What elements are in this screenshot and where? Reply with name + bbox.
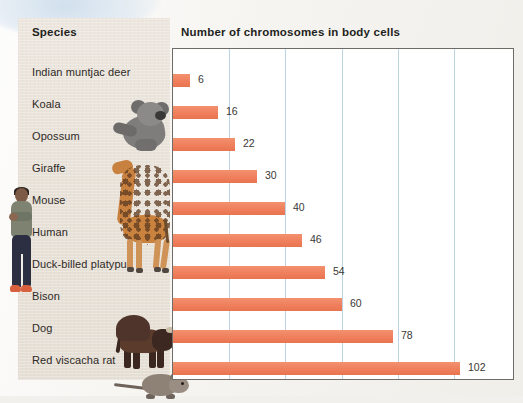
- bar-koala: [173, 106, 218, 119]
- bar-value-duck-billed-platypus: 54: [333, 265, 345, 277]
- species-label-1: Koala: [32, 98, 61, 110]
- bar-human: [173, 234, 302, 247]
- plot-area: 6 16 22 30 40: [172, 48, 514, 380]
- bar-value-giraffe: 30: [265, 169, 277, 181]
- bar-value-red-viscacha-rat: 102: [468, 361, 486, 373]
- bar-value-koala: 16: [226, 105, 238, 117]
- table-row: 6: [173, 65, 513, 97]
- bar-value-human: 46: [310, 233, 322, 245]
- table-row: 54: [173, 257, 513, 289]
- chromosome-figure: Species Indian muntjac deer Koala Opossu…: [18, 18, 514, 380]
- koala-illustration: [113, 98, 175, 154]
- chart-column-header: Number of chromosomes in body cells: [181, 26, 400, 38]
- species-label-8: Dog: [32, 322, 52, 334]
- species-panel: Species Indian muntjac deer Koala Opossu…: [18, 18, 170, 380]
- species-label-4: Mouse: [32, 194, 66, 206]
- species-column-header: Species: [32, 26, 77, 38]
- bar-red-viscacha-rat: [173, 362, 460, 375]
- chart-panel: Number of chromosomes in body cells 6 16: [170, 18, 514, 380]
- species-label-6: Duck-billed platypus: [32, 258, 132, 270]
- table-row: 60: [173, 289, 513, 321]
- bar-value-bison: 60: [350, 297, 362, 309]
- bar-opossum: [173, 138, 235, 151]
- bar-giraffe: [173, 170, 257, 183]
- species-label-2: Opossum: [32, 130, 80, 142]
- bar-value-opossum: 22: [243, 137, 255, 149]
- species-label-9: Red viscacha rat: [32, 354, 116, 366]
- bar-value-mouse: 40: [293, 201, 305, 213]
- table-row: 78: [173, 321, 513, 353]
- table-row: 46: [173, 225, 513, 257]
- bar-duck-billed-platypus: [173, 266, 325, 279]
- table-row: 22: [173, 129, 513, 161]
- table-row: 16: [173, 97, 513, 129]
- table-row: 30: [173, 161, 513, 193]
- bar-dog: [173, 330, 393, 343]
- bar-indian-muntjac-deer: [173, 74, 190, 87]
- bar-value-indian-muntjac-deer: 6: [198, 73, 204, 85]
- table-row: 40: [173, 193, 513, 225]
- species-label-7: Bison: [32, 290, 60, 302]
- species-label-0: Indian muntjac deer: [32, 66, 131, 78]
- species-label-5: Human: [32, 226, 68, 238]
- bar-bison: [173, 298, 342, 311]
- species-label-3: Giraffe: [32, 162, 66, 174]
- bar-value-dog: 78: [401, 329, 413, 341]
- table-row: 102: [173, 353, 513, 385]
- bar-mouse: [173, 202, 285, 215]
